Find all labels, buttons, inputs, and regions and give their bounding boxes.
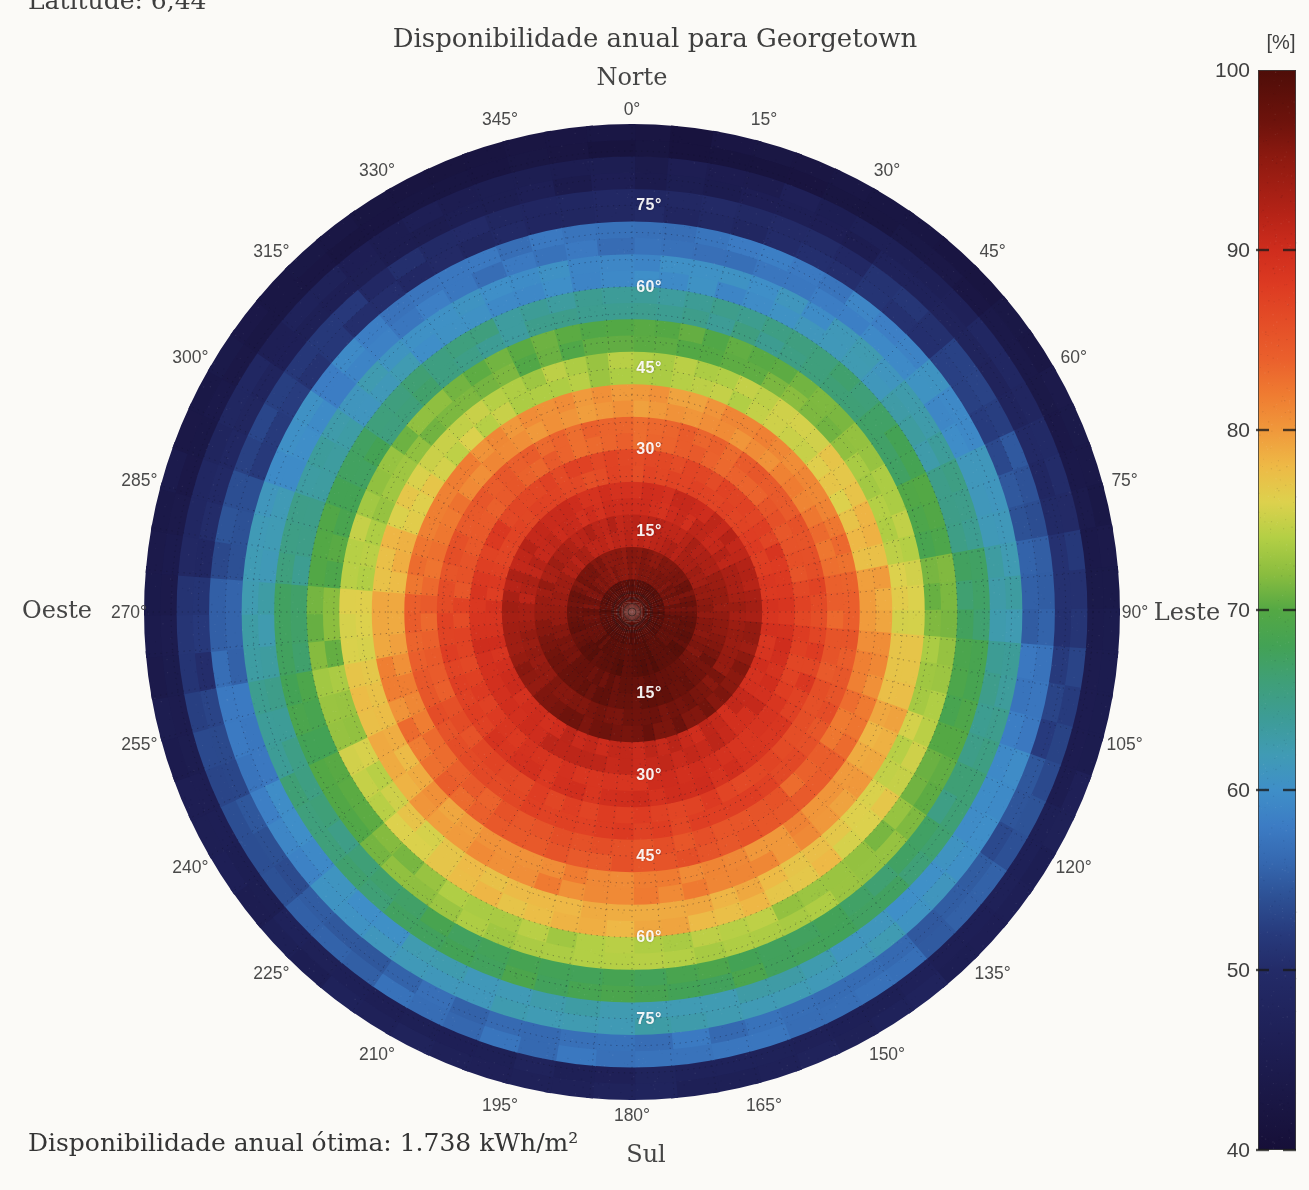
cardinal-label-north: Norte — [597, 63, 668, 91]
optimal-availability-label: Disponibilidade anual ótima: 1.738 kWh/m… — [28, 1128, 578, 1157]
cardinal-label-east: Leste — [1154, 598, 1220, 626]
azimuth-tick-label: 30° — [874, 160, 900, 181]
azimuth-tick-label: 120° — [1056, 857, 1092, 878]
colorbar-tick-label: 90 — [1227, 238, 1250, 262]
azimuth-tick-label: 0° — [624, 99, 641, 120]
azimuth-tick-label: 150° — [869, 1043, 905, 1064]
azimuth-tick-label: 225° — [253, 962, 289, 983]
colorbar-tick-label: 40 — [1227, 1138, 1250, 1162]
cardinal-label-south: Sul — [626, 1140, 666, 1168]
azimuth-tick-label: 270° — [111, 602, 147, 623]
azimuth-tick-label: 75° — [1111, 470, 1137, 491]
cardinal-label-west: Oeste — [22, 596, 92, 624]
azimuth-tick-label: 330° — [359, 160, 395, 181]
azimuth-tick-label: 60° — [1060, 347, 1086, 368]
azimuth-tick-label: 180° — [614, 1105, 650, 1126]
colorbar-tick-label: 60 — [1227, 778, 1250, 802]
colorbar-tick-label: 70 — [1227, 598, 1250, 622]
azimuth-tick-label: 90° — [1122, 602, 1148, 623]
tilt-tick-label-down: 45° — [636, 847, 662, 865]
tilt-tick-label-down: 60° — [636, 928, 662, 946]
azimuth-tick-label: 285° — [121, 470, 157, 491]
azimuth-tick-label: 210° — [359, 1043, 395, 1064]
azimuth-tick-label: 135° — [975, 962, 1011, 983]
tilt-tick-label-up: 60° — [636, 278, 662, 296]
azimuth-tick-label: 15° — [751, 109, 777, 130]
colorbar-tick-label: 80 — [1227, 418, 1250, 442]
azimuth-tick-label: 300° — [172, 347, 208, 368]
azimuth-tick-label: 315° — [253, 241, 289, 262]
azimuth-tick-label: 240° — [172, 857, 208, 878]
tilt-tick-label-up: 15° — [636, 522, 662, 540]
tilt-tick-label-up: 75° — [636, 196, 662, 214]
chart-title: Disponibilidade anual para Georgetown — [393, 23, 918, 53]
azimuth-tick-label: 165° — [746, 1094, 782, 1115]
azimuth-tick-label: 345° — [482, 109, 518, 130]
latitude-label: Latitude: 6,44 — [28, 0, 207, 15]
tilt-tick-label-down: 75° — [636, 1010, 662, 1028]
colorbar-tick-label: 100 — [1215, 58, 1250, 82]
colorbar-unit-label: [%] — [1267, 31, 1296, 54]
azimuth-tick-label: 195° — [482, 1094, 518, 1115]
tilt-tick-label-up: 45° — [636, 359, 662, 377]
azimuth-tick-label: 255° — [121, 733, 157, 754]
azimuth-tick-label: 45° — [979, 241, 1005, 262]
tilt-tick-label-up: 30° — [636, 440, 662, 458]
tilt-tick-label-down: 30° — [636, 766, 662, 784]
tilt-tick-label-down: 15° — [636, 684, 662, 702]
colorbar-tick-label: 50 — [1227, 958, 1250, 982]
azimuth-tick-label: 105° — [1107, 733, 1143, 754]
